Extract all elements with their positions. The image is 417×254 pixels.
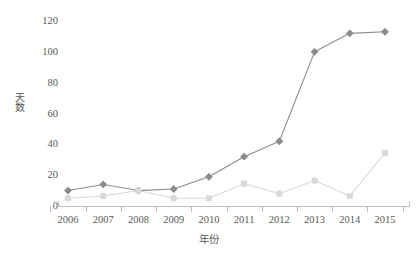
x-axis-right-cap	[409, 201, 410, 207]
data-point	[100, 181, 106, 187]
data-point	[206, 196, 211, 201]
series-line	[68, 153, 385, 198]
data-point	[241, 154, 247, 160]
data-point	[312, 178, 317, 183]
x-tick-mark	[227, 206, 228, 212]
y-tick-0: 0	[18, 201, 58, 211]
y-tick-60: 60	[18, 109, 58, 119]
y-tick-100: 100	[18, 47, 58, 57]
data-point	[65, 196, 70, 201]
y-tick-40: 40	[18, 139, 58, 149]
x-tick-mark	[191, 206, 192, 212]
data-point	[171, 196, 176, 201]
plot-svg	[60, 16, 409, 206]
data-point	[242, 181, 247, 186]
y-tick-80: 80	[18, 78, 58, 88]
x-tick-mark	[262, 206, 263, 212]
series-series-dark	[65, 29, 388, 194]
series-series-light	[65, 150, 387, 201]
y-tick-120: 120	[18, 16, 58, 26]
x-axis-line	[58, 206, 410, 207]
x-tick-mark	[297, 206, 298, 212]
data-point	[171, 186, 177, 192]
data-point	[277, 191, 282, 196]
data-point	[382, 29, 388, 35]
data-point	[136, 188, 141, 193]
x-tick-2015: 2015	[362, 214, 408, 225]
data-point	[276, 138, 282, 144]
data-point	[347, 30, 353, 36]
y-tick-20: 20	[18, 170, 58, 180]
data-point	[311, 49, 317, 55]
x-tick-mark	[156, 206, 157, 212]
x-tick-mark	[367, 206, 368, 212]
line-chart: 天数 020406080100120 200620072008200920102…	[0, 0, 417, 254]
plot-area	[60, 16, 409, 206]
x-tick-mark	[121, 206, 122, 212]
x-axis-title: 年份	[0, 231, 417, 246]
data-point	[347, 193, 352, 198]
x-tick-mark	[332, 206, 333, 212]
data-point	[206, 174, 212, 180]
series-line	[68, 32, 385, 191]
x-axis-left-cap	[58, 201, 59, 207]
x-tick-mark	[50, 206, 51, 212]
x-tick-mark	[403, 206, 404, 212]
data-point	[65, 187, 71, 193]
data-point	[101, 193, 106, 198]
x-tick-mark	[86, 206, 87, 212]
data-point	[382, 150, 387, 155]
